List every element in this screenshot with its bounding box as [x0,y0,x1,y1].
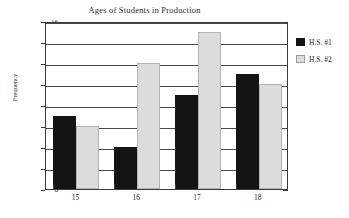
legend-swatch-icon-series-1 [296,38,305,46]
bar-15-series-1[interactable] [53,116,76,190]
bar-17-series-2[interactable] [198,32,221,190]
x-axis-tick-label: 16 [116,193,156,202]
bar-16-series-2[interactable] [137,63,160,189]
bar-17-series-1[interactable] [175,95,198,190]
y-axis-tick-mark [41,190,45,191]
y-axis-tick-mark [283,190,288,191]
legend-swatch-icon-series-2 [296,55,305,63]
legend-label-series-1: H.S. #1 [309,38,332,47]
bar-15-series-2[interactable] [76,126,99,189]
bar-16-series-1[interactable] [114,147,137,189]
bar-18-series-2[interactable] [259,84,282,189]
x-axis-tick-mark [236,184,237,189]
gridline [46,65,287,66]
x-axis-tick-mark [114,184,115,189]
gridline [46,23,287,24]
x-axis-tick-label: 17 [177,193,217,202]
x-axis-tick-mark [53,184,54,189]
x-axis-tick-mark [175,184,176,189]
plot-inner [46,23,287,189]
legend-item-series-2[interactable]: H.S. #2 [296,53,332,65]
bar-18-series-1[interactable] [236,74,259,190]
chart-legend: H.S. #1 H.S. #2 [296,36,332,70]
x-axis-tick-label: 18 [238,193,278,202]
legend-item-series-1[interactable]: H.S. #1 [296,36,332,48]
x-axis-tick-label: 15 [55,193,95,202]
plot-area [45,22,288,190]
chart-title: Ages of Students in Production [0,5,289,15]
y-axis-title: Frequency [11,58,18,118]
gridline [46,44,287,45]
legend-label-series-2: H.S. #2 [309,55,332,64]
